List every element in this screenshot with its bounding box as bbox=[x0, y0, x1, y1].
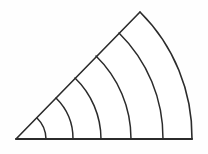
figure-canvas bbox=[0, 0, 208, 154]
sector-diagram-svg bbox=[0, 0, 208, 154]
sector-body-fill bbox=[16, 12, 192, 139]
